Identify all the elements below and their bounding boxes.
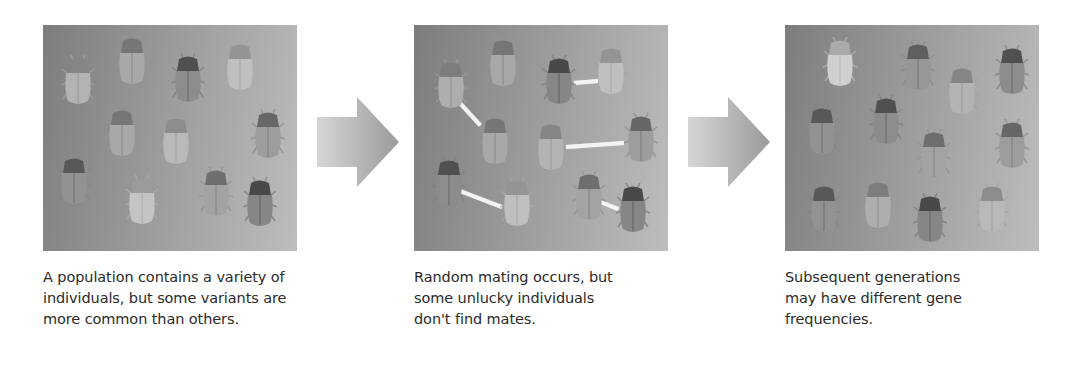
- beetle-icon: [861, 179, 895, 231]
- beetle-icon: [500, 177, 534, 229]
- caption-line: individuals, but some variants are: [43, 288, 286, 309]
- beetle-icon: [823, 37, 857, 89]
- beetle-icon: [61, 55, 95, 107]
- panel-subsequent-generation: [785, 25, 1039, 251]
- caption-line: some unlucky individuals: [414, 288, 613, 309]
- beetle-icon: [805, 105, 839, 157]
- beetle-icon: [57, 155, 91, 207]
- caption-line: A population contains a variety of: [43, 267, 286, 288]
- beetle-icon: [616, 183, 650, 235]
- beetle-icon: [594, 45, 628, 97]
- beetle-icon: [125, 175, 159, 227]
- caption-line: don't find mates.: [414, 309, 613, 330]
- beetle-icon: [478, 115, 512, 167]
- panel-initial-population: [43, 25, 297, 251]
- beetle-icon: [115, 35, 149, 87]
- beetle-icon: [434, 59, 468, 111]
- beetle-icon: [243, 177, 277, 229]
- caption-line: more common than others.: [43, 309, 286, 330]
- beetle-icon: [159, 115, 193, 167]
- beetle-icon: [251, 109, 285, 161]
- beetle-icon: [913, 193, 947, 245]
- beetle-icon: [869, 95, 903, 147]
- beetle-icon: [917, 129, 951, 181]
- beetle-icon: [901, 41, 935, 93]
- mating-line: [566, 141, 624, 149]
- beetle-icon: [995, 45, 1029, 97]
- beetle-icon: [486, 37, 520, 89]
- beetle-icon: [199, 167, 233, 219]
- beetle-icon: [223, 41, 257, 93]
- arrow-right-icon: [688, 97, 770, 187]
- caption-line: frequencies.: [785, 309, 962, 330]
- panel-random-mating: [414, 25, 668, 251]
- beetle-icon: [975, 183, 1009, 235]
- beetle-icon: [624, 113, 658, 165]
- beetle-icon: [171, 53, 205, 105]
- beetle-icon: [572, 171, 606, 223]
- beetle-icon: [534, 121, 568, 173]
- beetle-icon: [105, 107, 139, 159]
- caption-initial-population: A population contains a variety of indiv…: [43, 267, 286, 330]
- arrow-right-icon: [317, 97, 399, 187]
- beetle-icon: [432, 157, 466, 209]
- beetle-icon: [542, 55, 576, 107]
- caption-line: Random mating occurs, but: [414, 267, 613, 288]
- caption-line: may have different gene: [785, 288, 962, 309]
- caption-subsequent-generation: Subsequent generations may have differen…: [785, 267, 962, 330]
- beetle-icon: [807, 183, 841, 235]
- caption-line: Subsequent generations: [785, 267, 962, 288]
- caption-random-mating: Random mating occurs, but some unlucky i…: [414, 267, 613, 330]
- beetle-icon: [995, 119, 1029, 171]
- beetle-icon: [945, 65, 979, 117]
